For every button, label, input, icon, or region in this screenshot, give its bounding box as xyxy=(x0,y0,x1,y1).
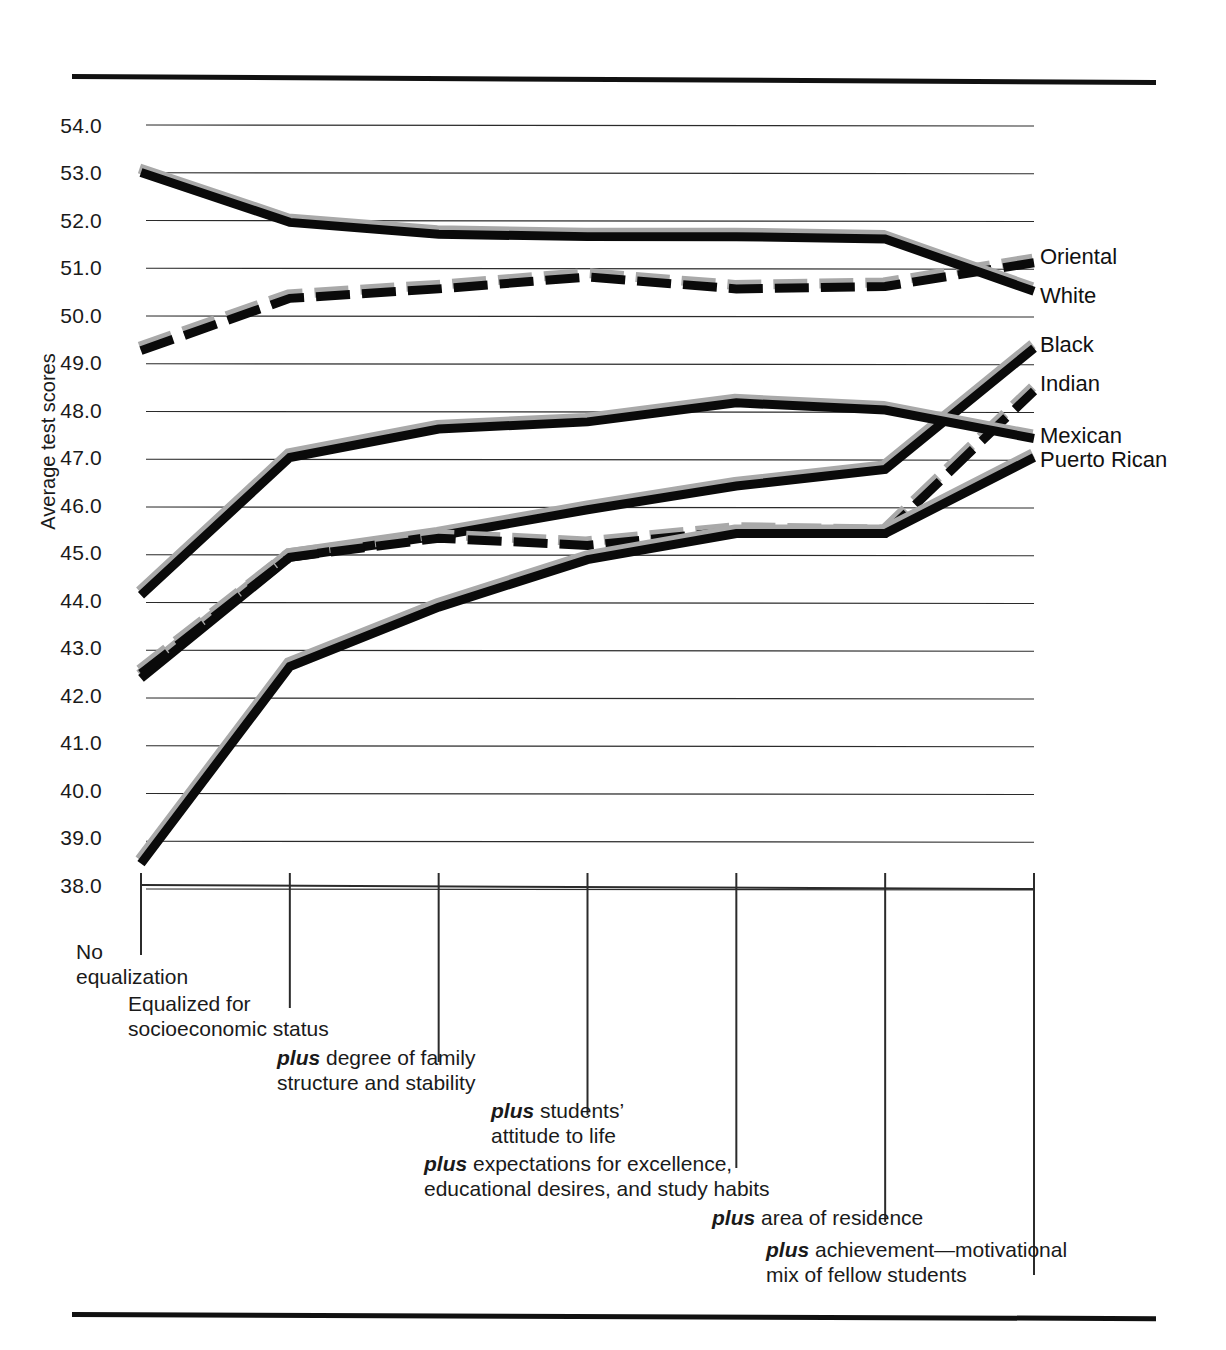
series-line-oriental xyxy=(141,263,1034,351)
x-caption-4: plus expectations for excellence, educat… xyxy=(424,1152,770,1201)
series-label-indian: Indian xyxy=(1040,371,1100,397)
gridline xyxy=(146,841,1034,842)
gridline xyxy=(146,650,1034,651)
gridline xyxy=(146,173,1034,174)
series-label-black: Black xyxy=(1040,332,1094,358)
x-caption-0: No equalization xyxy=(76,940,188,989)
gridline xyxy=(146,125,1034,126)
gridline xyxy=(146,746,1034,747)
x-caption-6: plus achievement—motivational mix of fel… xyxy=(766,1238,1067,1287)
gridline xyxy=(146,268,1034,269)
x-caption-5: plus area of residence xyxy=(712,1206,923,1231)
series-line-indian xyxy=(141,391,1034,674)
series-label-oriental: Oriental xyxy=(1040,244,1117,270)
figure-container: Average test scores 54.0 53.0 52.0 51.0 … xyxy=(0,0,1226,1350)
series-label-white: White xyxy=(1040,283,1096,309)
caption-emphasis: plus xyxy=(277,1046,320,1069)
x-caption-1: Equalized for socioeconomic status xyxy=(128,992,329,1041)
caption-emphasis: plus xyxy=(424,1152,467,1175)
caption-emphasis: plus xyxy=(491,1099,534,1122)
series-layer xyxy=(140,169,1035,864)
series-label-puerto-rican: Puerto Rican xyxy=(1040,447,1167,473)
x-caption-3: plus students’ attitude to life xyxy=(491,1099,624,1148)
x-caption-2: plus degree of family structure and stab… xyxy=(277,1046,475,1095)
gridline xyxy=(146,794,1034,795)
caption-emphasis: plus xyxy=(766,1238,809,1261)
gridline xyxy=(146,603,1034,604)
gridline xyxy=(146,364,1034,365)
gridline xyxy=(146,698,1034,699)
caption-emphasis: plus xyxy=(712,1206,755,1229)
gridline xyxy=(146,316,1034,317)
series-label-mexican: Mexican xyxy=(1040,423,1122,449)
